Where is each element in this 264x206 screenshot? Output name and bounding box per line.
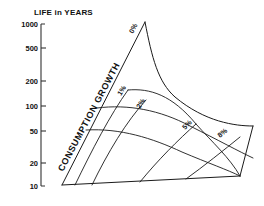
curve-label-5pct: 5% — [181, 118, 194, 131]
y-tick-label-500: 500 — [25, 44, 38, 53]
y-tick-label-10: 10 — [30, 182, 38, 191]
y-tick-label-1000: 1000 — [21, 20, 38, 29]
y-axis — [41, 24, 46, 186]
y-tick-label-50: 50 — [30, 127, 38, 136]
curve-labels: 0% 1% 2% 5% 8% — [116, 22, 229, 139]
ridge-line-2pct — [92, 100, 146, 185]
surface-chart-canvas: 1000 500 200 100 50 20 10 LIFE in YEARS — [0, 0, 264, 206]
surface-edge-left — [62, 22, 145, 185]
chart-figure: 1000 500 200 100 50 20 10 LIFE in YEARS — [0, 0, 264, 206]
page-title: LIFE in YEARS — [34, 8, 93, 17]
curve-label-1pct: 1% — [116, 84, 128, 97]
ridge-line-5pct — [140, 124, 196, 182]
curve-label-8pct: 8% — [216, 126, 229, 138]
y-tick-label-200: 200 — [25, 77, 38, 86]
y-tick-label-20: 20 — [30, 159, 38, 168]
y-axis-tick-labels: 1000 500 200 100 50 20 10 — [21, 20, 38, 191]
curve-label-0pct: 0% — [128, 22, 139, 35]
surface-edge-bottom — [62, 176, 240, 185]
surface-edge-right — [240, 126, 253, 176]
curve-label-2pct: 2% — [135, 97, 147, 110]
y-tick-label-100: 100 — [25, 102, 38, 111]
surface-edge-top-right — [145, 22, 253, 126]
